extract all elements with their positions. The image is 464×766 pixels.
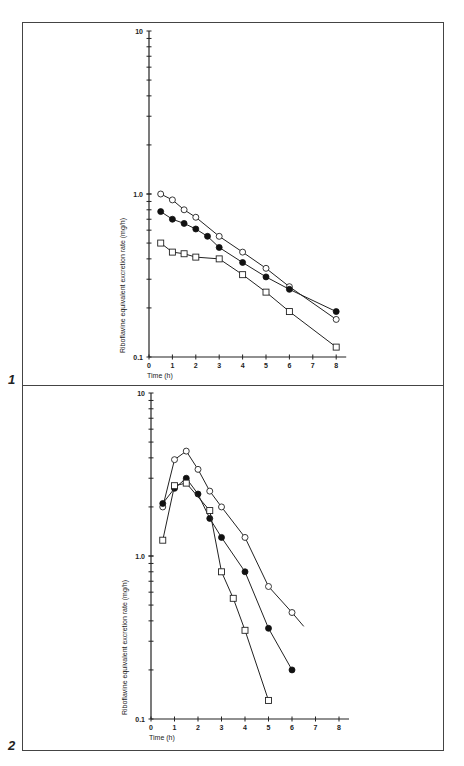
filled-circle-marker <box>263 274 269 280</box>
open-square-marker <box>263 289 269 295</box>
x-tick-label: 7 <box>311 362 315 369</box>
y-tick-label: 1.0 <box>135 553 145 560</box>
x-tick-label: 3 <box>220 724 224 731</box>
x-tick-label: 0 <box>149 724 153 731</box>
y-tick-label: 10 <box>137 390 145 397</box>
open-circle-marker <box>289 610 295 616</box>
x-tick-label: 7 <box>314 724 318 731</box>
x-tick-label: 2 <box>196 724 200 731</box>
filled-circle-marker <box>205 233 211 239</box>
open-square-line <box>163 483 269 700</box>
x-tick-label: 1 <box>170 362 174 369</box>
filled-circle-marker <box>216 244 222 250</box>
open-circle-marker <box>169 197 175 203</box>
x-tick-label: 6 <box>287 362 291 369</box>
filled-circle-marker <box>240 259 246 265</box>
x-tick-label: 4 <box>241 362 245 369</box>
open-circle-marker <box>333 316 339 322</box>
open-square-marker <box>193 254 199 260</box>
y-tick-label: 1.0 <box>133 191 143 198</box>
open-square-marker <box>240 272 246 278</box>
open-circle-marker <box>158 191 164 197</box>
filled-circle-marker <box>160 500 166 506</box>
x-tick-label: 8 <box>337 724 341 731</box>
open-circle-marker <box>219 504 225 510</box>
filled-circle-line <box>161 212 337 312</box>
open-circle-marker <box>207 488 213 494</box>
x-tick-label: 1 <box>173 724 177 731</box>
x-tick-label: 4 <box>243 724 247 731</box>
x-tick-label: 5 <box>267 724 271 731</box>
filled-circle-marker <box>242 569 248 575</box>
open-square-marker <box>183 480 189 486</box>
filled-circle-marker <box>286 286 292 292</box>
filled-circle-marker <box>193 226 199 232</box>
open-circle-marker <box>242 534 248 540</box>
filled-circle-marker <box>289 667 295 673</box>
open-square-marker <box>266 697 272 703</box>
open-square-marker <box>219 569 225 575</box>
open-circle-marker <box>195 466 201 472</box>
x-tick-label: 0 <box>147 362 151 369</box>
open-circle-marker <box>263 265 269 271</box>
open-square-marker <box>158 240 164 246</box>
open-circle-marker <box>240 249 246 255</box>
filled-circle-marker <box>158 209 164 215</box>
open-square-marker <box>230 595 236 601</box>
open-circle-marker <box>193 214 199 220</box>
open-square-marker <box>172 483 178 489</box>
open-square-marker <box>333 344 339 350</box>
open-circle-marker <box>181 207 187 213</box>
x-axis-label: Time (h) <box>149 734 175 742</box>
y-tick-label: 0.1 <box>135 716 145 723</box>
open-square-marker <box>242 627 248 633</box>
y-tick-label: 0.1 <box>133 354 143 361</box>
x-tick-label: 8 <box>334 362 338 369</box>
open-square-marker <box>160 537 166 543</box>
open-circle-marker <box>172 457 178 463</box>
open-square-line <box>161 243 337 347</box>
x-axis-label: Time (h) <box>147 372 173 380</box>
chart-2: 101.00.1012345678Time (h)Riboflavine equ… <box>121 390 349 743</box>
open-square-marker <box>216 256 222 262</box>
filled-circle-marker <box>333 309 339 315</box>
x-tick-label: 6 <box>290 724 294 731</box>
open-square-marker <box>207 508 213 514</box>
charts-canvas: 101.00.1012345678Time (h)Riboflavine equ… <box>0 0 464 766</box>
x-tick-label: 5 <box>264 362 268 369</box>
filled-circle-marker <box>266 625 272 631</box>
open-square-marker <box>181 251 187 257</box>
filled-circle-marker <box>169 216 175 222</box>
filled-circle-line <box>163 478 292 670</box>
filled-circle-marker <box>181 220 187 226</box>
y-axis-label: Riboflavine equivalent excretion rate (m… <box>119 218 127 353</box>
open-circle-marker <box>216 233 222 239</box>
x-tick-label: 2 <box>194 362 198 369</box>
open-circle-marker <box>183 448 189 454</box>
open-square-marker <box>169 249 175 255</box>
y-tick-label: 10 <box>135 28 143 35</box>
chart-1: 101.00.1012345678Time (h)Riboflavine equ… <box>119 28 346 381</box>
x-tick-label: 3 <box>217 362 221 369</box>
open-square-marker <box>286 309 292 315</box>
filled-circle-marker <box>219 534 225 540</box>
y-axis-label: Riboflavine equivalent excretion rate (m… <box>121 580 129 715</box>
open-circle-marker <box>266 583 272 589</box>
